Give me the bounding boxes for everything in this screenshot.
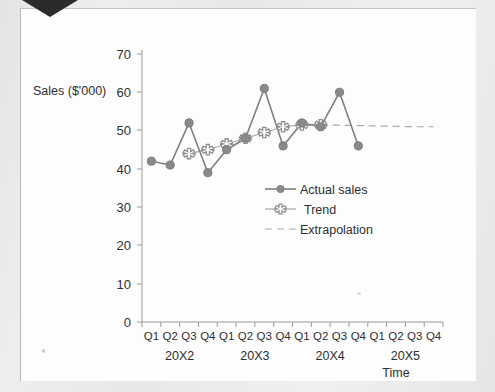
chart-legend: Actual sales Trend Extrapolation xyxy=(265,183,373,237)
y-tick-0: 0 xyxy=(124,315,131,330)
x-axis-year-label: 20X4 xyxy=(316,349,345,363)
x-tick-label: Q1 xyxy=(294,330,309,342)
y-tick-50: 50 xyxy=(117,123,131,138)
data-point-trend xyxy=(202,145,214,155)
data-point-actual-sales xyxy=(260,84,268,92)
y-axis-tick-labels: 70 60 50 40 30 20 10 0 xyxy=(117,47,131,330)
data-point-trend xyxy=(258,127,270,137)
x-tick-label: Q3 xyxy=(407,330,422,342)
x-tick-label: Q2 xyxy=(238,330,253,342)
legend-label-trend: Trend xyxy=(304,203,336,217)
x-tick-label: Q2 xyxy=(163,330,178,342)
x-tick-label: Q1 xyxy=(369,330,384,342)
y-tick-30: 30 xyxy=(117,200,131,215)
data-point-actual-sales xyxy=(204,169,212,177)
x-tick-label: Q2 xyxy=(313,330,328,342)
data-point-actual-sales xyxy=(166,161,174,169)
y-tick-60: 60 xyxy=(117,85,131,100)
x-tick-label: Q3 xyxy=(181,330,196,342)
sales-trend-chart: Sales ($'000) 70 60 50 40 30 20 10 0 Q1Q… xyxy=(0,0,495,392)
x-tick-label: Q3 xyxy=(257,330,272,342)
y-axis-title: Sales ($'000) xyxy=(33,84,106,98)
x-axis-year-label: 20X2 xyxy=(165,349,194,363)
series-actual-sales-line xyxy=(151,88,358,172)
x-axis-year-label: 20X5 xyxy=(391,349,420,363)
legend-marker-trend xyxy=(275,204,286,214)
series-actual-sales-points xyxy=(147,84,362,176)
x-tick-label: Q4 xyxy=(426,330,442,342)
x-tick-label: Q3 xyxy=(332,330,347,342)
x-tick-label: Q4 xyxy=(275,330,291,342)
legend-marker-actual-sales xyxy=(277,185,284,192)
y-tick-10: 10 xyxy=(117,277,131,292)
data-point-actual-sales xyxy=(185,119,193,127)
x-axis-year-label: 20X3 xyxy=(240,349,269,363)
x-tick-label: Q4 xyxy=(200,330,216,342)
legend-label-actual-sales: Actual sales xyxy=(300,183,367,197)
data-point-actual-sales xyxy=(298,119,306,127)
data-point-actual-sales xyxy=(147,157,155,165)
x-axis-title: Time xyxy=(382,366,409,380)
data-point-trend xyxy=(277,122,289,132)
x-tick-label: Q2 xyxy=(388,330,403,342)
x-tick-label: Q1 xyxy=(144,330,159,342)
x-axis-ticks xyxy=(142,322,443,327)
y-axis-ticks xyxy=(137,54,142,322)
x-tick-label: Q1 xyxy=(219,330,234,342)
y-tick-40: 40 xyxy=(117,162,131,177)
x-tick-label: Q4 xyxy=(351,330,367,342)
data-point-actual-sales xyxy=(223,146,231,154)
data-point-actual-sales xyxy=(279,142,287,150)
x-axis-tick-labels: Q1Q2Q3Q4Q1Q2Q3Q4Q1Q2Q3Q4Q1Q2Q3Q4 xyxy=(144,330,442,342)
y-tick-70: 70 xyxy=(117,47,131,62)
series-extrapolation-line xyxy=(321,125,434,127)
data-point-actual-sales xyxy=(317,123,325,131)
data-point-actual-sales xyxy=(354,142,362,150)
x-axis-year-labels: 20X220X320X420X5 xyxy=(165,349,420,363)
data-point-trend xyxy=(183,148,195,158)
legend-label-extrapolation: Extrapolation xyxy=(300,223,373,237)
y-tick-20: 20 xyxy=(117,238,131,253)
data-point-actual-sales xyxy=(335,88,343,96)
data-point-actual-sales xyxy=(241,134,249,142)
